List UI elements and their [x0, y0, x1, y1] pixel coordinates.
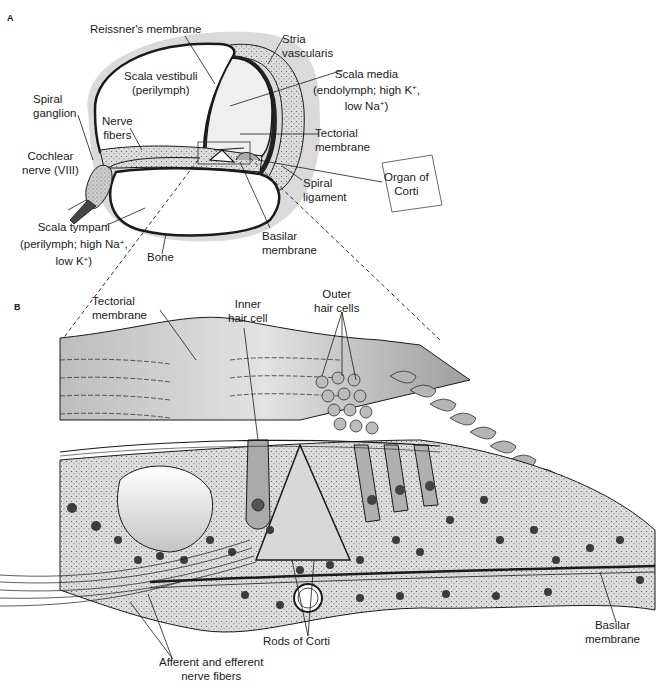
label-bone: Bone [147, 250, 174, 264]
label-scala-media: Scala media (endolymph; high K+, low Na+… [313, 66, 420, 114]
panel-label-a: A [7, 13, 14, 23]
panel-b-organ-of-corti [0, 310, 655, 658]
label-stria-vascularis: Striavascularis [282, 32, 333, 60]
label-scala-vestibuli: Scala vestibuli(perilymph) [124, 69, 198, 97]
label-nerve-fibers: Nervefibers [102, 114, 133, 142]
label-organ-of-corti: Organ ofCorti [384, 170, 429, 198]
label-spiral-ligament: Spiralligament [303, 176, 346, 204]
label-scala-tympani: Scala tympani (perilymph; high Na+, low … [20, 219, 128, 270]
label-basilar-membrane-a: Basilarmembrane [262, 229, 317, 257]
label-outer-hair-cells: Outerhair cells [314, 287, 359, 315]
label-tectorial-membrane-b: Tectorialmembrane [92, 294, 147, 322]
tectorial-membrane [60, 317, 470, 420]
label-afferent-efferent-nerve-fibers: Afferent and efferentnerve fibers [159, 655, 263, 683]
label-reissners-membrane: Reissner's membrane [90, 22, 202, 36]
label-inner-hair-cell: Innerhair cell [228, 297, 268, 325]
label-cochlear-nerve: Cochlearnerve (VIII) [22, 149, 79, 177]
panel-label-b: B [14, 302, 21, 312]
label-spiral-ganglion: Spiralganglion [33, 92, 76, 120]
label-tectorial-membrane-a: Tectorialmembrane [315, 126, 370, 154]
scala-tympani [110, 168, 279, 235]
label-rods-of-corti: Rods of Corti [263, 634, 330, 648]
inner-hair-cell [246, 440, 270, 529]
label-basilar-membrane-b: Basilarmembrane [585, 618, 640, 646]
